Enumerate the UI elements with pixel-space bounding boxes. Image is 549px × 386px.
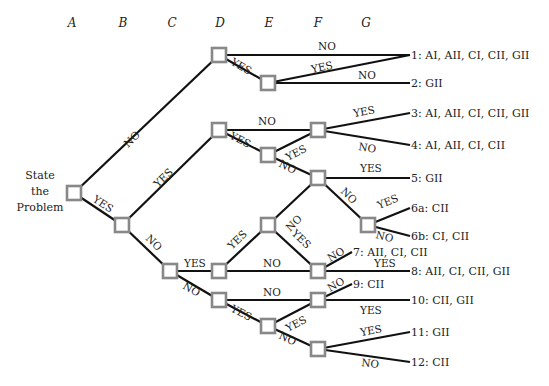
outcome-7: 7: AII, CI, CII: [353, 246, 428, 259]
label-no: NO: [181, 279, 203, 298]
column-header-c: C: [167, 16, 176, 30]
label-yes: YES: [358, 322, 383, 338]
outcome-6a: 6a: CII: [411, 202, 449, 215]
root-label-line-3: Problem: [17, 201, 64, 214]
column-header-e: E: [264, 16, 274, 30]
label-yes: YES: [351, 103, 376, 119]
decision-node-d5[interactable]: [212, 293, 226, 307]
outcome-12: 12: CII: [411, 356, 449, 369]
decision-tree: A B C D E F G State the Problem: [0, 0, 549, 386]
root-label: State the Problem: [17, 169, 64, 214]
column-header-a: A: [67, 16, 77, 30]
decision-node-c[interactable]: [163, 264, 177, 278]
label-no: NO: [358, 69, 376, 81]
outcome-4: 4: AI, AII, CI, CII: [411, 139, 505, 152]
label-yes: YES: [359, 304, 382, 316]
decision-node-b[interactable]: [115, 218, 129, 232]
outcome-5: 5: GII: [411, 172, 443, 185]
label-yes: YES: [227, 129, 253, 150]
outcome-11: 11: GII: [411, 326, 450, 339]
root-label-line-1: State: [25, 169, 54, 182]
column-header-g: G: [361, 16, 371, 30]
decision-node-f4[interactable]: [311, 264, 325, 278]
decision-node-e2[interactable]: [261, 148, 275, 162]
label-yes: YES: [374, 192, 400, 212]
label-no: NO: [361, 356, 381, 370]
decision-node-d1[interactable]: [212, 48, 226, 62]
label-yes: YES: [359, 162, 382, 174]
root-label-line-2: the: [31, 185, 49, 198]
decision-node-root[interactable]: [67, 186, 81, 200]
decision-node-d2[interactable]: [212, 123, 226, 137]
column-header-f: F: [313, 16, 323, 30]
label-no: NO: [277, 157, 299, 176]
decision-node-f3[interactable]: [311, 171, 325, 185]
outcome-1: 1: AI, AII, CI, CII, GII: [411, 49, 529, 62]
outcome-9: 9: CII: [353, 278, 384, 291]
decision-node-d4[interactable]: [212, 264, 226, 278]
edge-root-d1: [74, 55, 219, 193]
column-header-b: B: [118, 16, 128, 30]
label-no: NO: [325, 244, 347, 263]
column-header-d: D: [214, 16, 225, 30]
label-no: NO: [277, 329, 299, 348]
decision-node-e4[interactable]: [261, 218, 275, 232]
outcome-8: 8: AII, CI, CII, GII: [411, 265, 510, 278]
label-no: NO: [263, 257, 281, 269]
label-yes: YES: [183, 257, 206, 269]
decision-node-f2[interactable]: [311, 123, 325, 137]
label-no: NO: [318, 40, 336, 52]
label-no: NO: [358, 140, 378, 155]
outcome-3: 3: AI, AII, CI, CII, GII: [411, 107, 529, 120]
decision-node-e1[interactable]: [261, 76, 275, 90]
label-no: NO: [325, 274, 347, 293]
outcome-2: 2: GII: [411, 77, 443, 90]
branch-labels: NO YES NO YES YES NO YES NO NO YES YES N…: [90, 40, 400, 370]
outcome-10: 10: CII, GII: [411, 294, 474, 307]
decision-node-e5[interactable]: [261, 319, 275, 333]
outcome-6b: 6b: CI, CII: [411, 230, 469, 243]
edge-e1-out1: [268, 55, 410, 83]
label-no: NO: [263, 286, 281, 298]
decision-node-f5[interactable]: [311, 293, 325, 307]
column-headers: A B C D E F G: [67, 16, 372, 30]
label-no: NO: [339, 185, 360, 206]
label-yes: YES: [309, 59, 334, 75]
label-yes: YES: [228, 302, 254, 323]
label-no: NO: [258, 115, 276, 127]
decision-node-f6[interactable]: [311, 342, 325, 356]
label-yes: YES: [224, 228, 249, 252]
decision-node-g[interactable]: [361, 218, 375, 232]
